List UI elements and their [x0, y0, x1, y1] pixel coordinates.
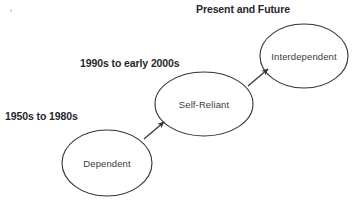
node-label-self-reliant: Self-Reliant [179, 99, 229, 110]
era-label-1990s-to-early-2000s: 1990s to early 2000s [80, 57, 180, 69]
arrow-dependent-to-self-reliant [144, 122, 164, 139]
diagram-canvas: 1950s to 1980s 1990s to early 2000s Pres… [0, 0, 356, 204]
arrow-self-reliant-to-interdependent [248, 69, 268, 86]
node-label-dependent: Dependent [83, 158, 130, 169]
era-label-present-and-future: Present and Future [196, 3, 290, 15]
era-label-1950s-to-1980s: 1950s to 1980s [5, 110, 78, 122]
scan-artifact-speck [10, 9, 12, 12]
node-label-interdependent: Interdependent [271, 51, 336, 62]
